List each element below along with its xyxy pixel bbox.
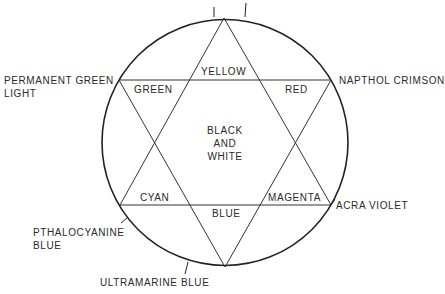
tick-ultramarine [185,262,188,274]
outer-label-line-1: PTHALOCYANINE [33,226,125,239]
outer-label-napthol-crimson: NAPTHOL CRIMSON [339,74,445,87]
outer-label-permanent-green-light: PERMANENT GREEN LIGHT [4,74,114,100]
outer-label-pthalocyanine-blue: PTHALOCYANINE BLUE [33,226,125,252]
outer-label-line-2: BLUE [33,239,125,252]
tick-pthalocyanine [121,218,127,223]
inner-label-magenta: MAGENTA [268,191,321,204]
inner-label-red: RED [285,83,308,96]
center-label-line-2: AND [196,137,254,150]
upward-triangle [120,18,331,205]
outer-label-acra-violet: ACRA VIOLET [336,199,408,212]
inner-label-yellow: YELLOW [201,65,246,78]
outer-label-ultramarine-blue: ULTRAMARINE BLUE [100,276,209,289]
center-label-line-1: BLACK [196,124,254,137]
tick-top-right [245,3,246,17]
outer-label-line-2: LIGHT [4,87,114,100]
label-cropped-top [300,0,303,4]
inner-label-green: GREEN [134,83,173,96]
center-label-line-3: WHITE [196,150,254,163]
inner-label-blue: BLUE [212,207,241,220]
center-label: BLACK AND WHITE [196,124,254,163]
downward-triangle [119,80,331,267]
inner-label-cyan: CYAN [140,191,169,204]
outer-label-line-1: PERMANENT GREEN [4,74,114,87]
